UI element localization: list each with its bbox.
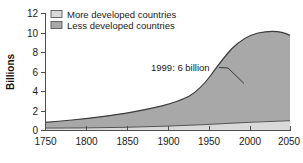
chart-canvas: 12 10 8 6 4 2 0 1750 1800 1850 1900 1950… [0,0,303,163]
x-tick-label: 1800 [75,136,98,147]
x-tick-label: 1750 [34,136,57,147]
y-tick-label: 2 [32,106,38,117]
y-tick-label: 12 [27,8,39,19]
legend-swatch-more-developed [51,11,62,18]
y-tick-label: 8 [32,47,38,58]
annotation-label: 1999: 6 billion [151,62,210,73]
y-axis-title: Billions [5,54,16,91]
x-axis-tick-labels: 1750 1800 1850 1900 1950 2000 2050 [34,136,300,147]
y-tick-label: 0 [32,125,38,136]
x-tick-label: 1850 [116,136,139,147]
y-tick-label: 6 [32,67,38,78]
x-tick-label: 1900 [157,136,180,147]
y-tick-label: 10 [27,28,39,39]
x-tick-label: 2000 [239,136,262,147]
y-axis-ticks [41,14,45,131]
y-tick-label: 4 [32,86,38,97]
x-tick-label: 2050 [278,136,301,147]
population-growth-area-chart: 12 10 8 6 4 2 0 1750 1800 1850 1900 1950… [0,0,303,163]
area-less-developed [45,31,290,128]
legend-label-less-developed: Less developed countries [67,20,175,31]
y-axis-tick-labels: 12 10 8 6 4 2 0 [27,8,39,136]
legend-swatch-less-developed [51,22,62,29]
x-tick-label: 1950 [198,136,221,147]
legend-label-more-developed: More developed countries [67,9,177,20]
chart-legend: More developed countries Less developed … [51,9,177,31]
